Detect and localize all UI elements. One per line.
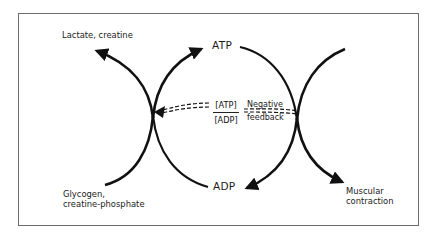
label-lactate-creatine: Lactate, creatine (62, 30, 133, 40)
label-muscular-line1: Muscular (346, 186, 394, 196)
ratio-numerator: [ATP] (213, 100, 239, 113)
label-adp: ADP (213, 181, 236, 191)
atp-adp-ratio: [ATP] [ADP] (213, 100, 239, 125)
curve-upper-right (297, 49, 345, 120)
arrow-to-lactate (97, 51, 153, 118)
label-feedback: feedback (247, 113, 284, 123)
curve-from-adp (153, 116, 208, 187)
curve-from-glycogen (105, 116, 153, 185)
label-muscular-line2: contraction (346, 196, 394, 206)
arrow-to-muscular (297, 118, 342, 182)
ratio-denominator: [ADP] (213, 113, 239, 125)
label-glycogen: Glycogen, creatine-phosphate (63, 189, 145, 209)
left-junction-curves (97, 49, 208, 187)
label-muscular-contraction: Muscular contraction (346, 186, 394, 206)
label-glycogen-line1: Glycogen, (63, 189, 145, 199)
label-atp: ATP (212, 40, 232, 50)
label-glycogen-line2: creatine-phosphate (63, 199, 145, 209)
arrow-to-adp (247, 118, 297, 188)
label-negative: Negative (247, 100, 283, 110)
